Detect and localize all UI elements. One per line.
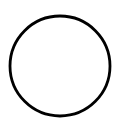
circle-outline [10, 16, 110, 116]
drawing-canvas [0, 0, 116, 127]
